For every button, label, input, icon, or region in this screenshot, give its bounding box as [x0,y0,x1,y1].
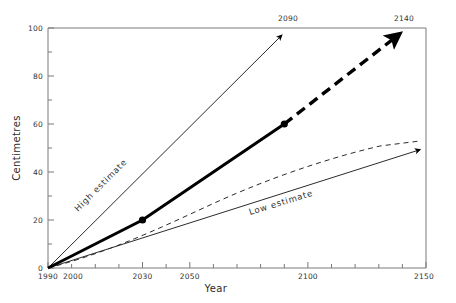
y-tick-label-80: 80 [33,72,43,81]
y-tick-label-100: 100 [28,24,43,33]
annotation-year-2140: 2140 [394,14,414,23]
x-axis-title: Year [204,283,228,294]
y-tick-label-40: 40 [33,168,43,177]
y-tick-label-60: 60 [33,120,43,129]
x-tick-label-1990: 1990 [38,272,58,281]
x-axis-ticks [48,262,426,268]
data-point-2090-60cm [281,120,288,127]
plot-frame [48,28,426,268]
series-label-low-estimate: Low estimate [248,188,314,217]
y-axis-ticks [48,28,54,268]
x-tick-label-2150: 2150 [414,272,434,281]
y-axis-title: Centimetres [11,115,22,181]
x-tick-label-2100: 2100 [298,272,318,281]
sea-level-projection-chart: 100 80 60 40 20 0 Centimetres [0,0,456,303]
x-tick-label-2030: 2030 [133,272,153,281]
x-tick-label-2000: 2000 [63,272,83,281]
series-label-high-estimate: High estimate [72,157,129,214]
x-axis-tick-labels: 1990 2000 2030 2050 2100 2150 [38,272,434,281]
data-point-2030-20cm [139,216,146,223]
annotation-year-2090: 2090 [278,14,298,23]
x-tick-label-2050: 2050 [180,272,200,281]
series-mid-curve-line [48,141,420,268]
y-tick-label-20: 20 [33,216,43,225]
series-best-estimate-dashed [284,36,397,124]
y-axis-tick-labels: 100 80 60 40 20 0 [28,24,43,273]
chart-canvas: 100 80 60 40 20 0 Centimetres [0,0,456,303]
series-high-estimate-line [48,36,281,268]
